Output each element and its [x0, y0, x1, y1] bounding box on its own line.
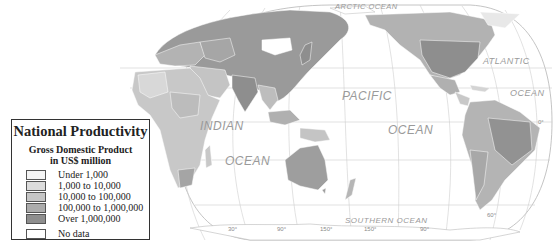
legend-row-no-data: No data	[26, 228, 89, 239]
legend-swatch-10000-100000	[26, 192, 46, 202]
pacific-ocean-label-1: PACIFIC	[342, 89, 392, 103]
legend-row-100000-1000000: 100,000 to 1,000,000	[26, 202, 143, 213]
legend-row-over-1000000: Over 1,000,000	[26, 213, 121, 224]
lon-30-degree-label: 30°	[228, 226, 237, 232]
legend-swatch-no-data	[26, 229, 46, 239]
legend-label-no-data: No data	[58, 228, 89, 239]
indian-ocean-label-1: INDIAN	[200, 119, 244, 133]
legend-label-100000-1000000: 100,000 to 1,000,000	[58, 202, 143, 213]
legend-swatch-under-1000	[26, 170, 46, 180]
arctic-ocean-label: ARCTIC OCEAN	[335, 2, 398, 11]
legend-subtitle-line2: in US$ million	[12, 155, 149, 166]
legend-swatch-1000-10000	[26, 181, 46, 191]
map-legend: National Productivity Gross Domestic Pro…	[11, 119, 150, 240]
legend-title: National Productivity	[12, 123, 149, 140]
atlantic-ocean-label-2: OCEAN	[510, 88, 545, 98]
lon-150w-degree-label: 150°	[364, 226, 376, 232]
legend-row-10000-100000: 10,000 to 100,000	[26, 191, 131, 202]
equator-degree-label: 0°	[538, 119, 544, 125]
legend-label-1000-10000: 1,000 to 10,000	[58, 180, 121, 191]
lon-90-degree-label: 90°	[277, 226, 286, 232]
legend-label-10000-100000: 10,000 to 100,000	[58, 191, 131, 202]
pacific-ocean-label-2: OCEAN	[388, 123, 433, 137]
southern-ocean-label: SOUTHERN OCEAN	[345, 216, 428, 225]
legend-row-1000-10000: 1,000 to 10,000	[26, 180, 121, 191]
indian-ocean-label-2: OCEAN	[225, 154, 270, 168]
legend-subtitle-line1: Gross Domestic Product	[12, 144, 149, 155]
lon-90w-degree-label: 90°	[420, 226, 429, 232]
lon-150-degree-label: 150°	[320, 226, 332, 232]
legend-label-over-1000000: Over 1,000,000	[58, 213, 121, 224]
legend-label-under-1000: Under 1,000	[58, 169, 108, 180]
lat-60s-degree-label: 60°	[487, 212, 496, 218]
legend-swatch-100000-1000000	[26, 203, 46, 213]
atlantic-ocean-label-1: ATLANTIC	[483, 56, 530, 66]
legend-row-under-1000: Under 1,000	[26, 169, 108, 180]
legend-swatch-over-1000000	[26, 214, 46, 224]
